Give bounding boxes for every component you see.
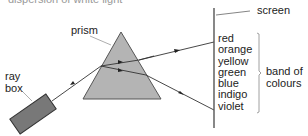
ray-box <box>10 94 56 134</box>
ray-box-label-line2: box <box>5 82 23 94</box>
band-label-line1: band of <box>266 65 303 77</box>
spectrum-list: red orange yellow green blue indigo viol… <box>218 33 252 112</box>
red-ray-out-arrow <box>174 49 180 53</box>
screen-label: screen <box>257 4 290 16</box>
incident-ray-arrow <box>70 81 75 85</box>
prism-dispersion-diagram <box>0 0 308 136</box>
spectrum-orange: orange <box>218 44 252 55</box>
spectrum-violet: violet <box>218 101 252 112</box>
band-bracket <box>257 33 261 113</box>
red-ray-extension <box>139 56 154 60</box>
screen-leader-line <box>216 11 250 15</box>
ray-box-label-line1: ray <box>5 70 20 82</box>
band-label-line2: colours <box>266 77 301 89</box>
prism-shape <box>83 32 161 99</box>
ray-box-leader-line <box>22 91 32 101</box>
prism-leader-line <box>90 36 111 45</box>
prism-label: prism <box>71 24 98 36</box>
